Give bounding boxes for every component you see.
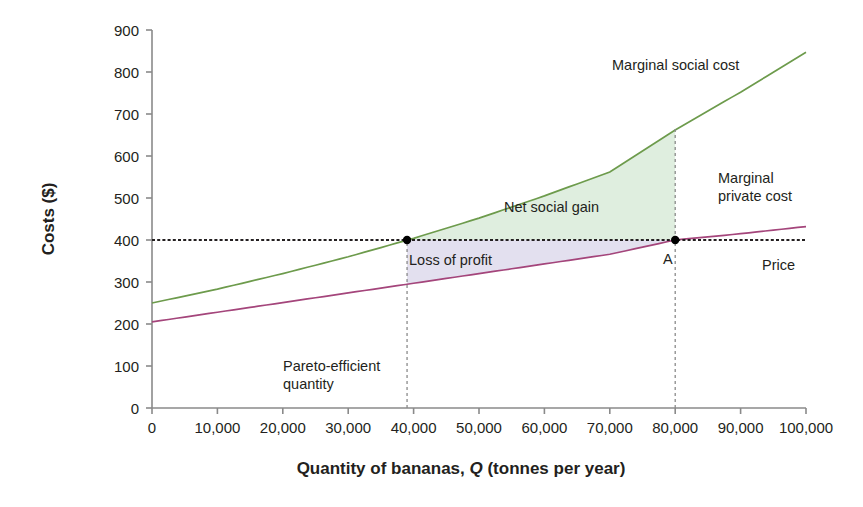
x-tick-label: 100,000	[779, 419, 833, 436]
x-tick-label: 50,000	[456, 419, 502, 436]
y-tick-label: 800	[114, 64, 139, 81]
y-tick-label: 0	[131, 400, 139, 417]
economics-externality-chart: 0100200300400500600700800900010,00020,00…	[0, 0, 863, 507]
chart-canvas: 0100200300400500600700800900010,00020,00…	[0, 0, 863, 507]
price-label: Price	[762, 257, 795, 273]
loss-of-profit-label: Loss of profit	[409, 252, 492, 268]
x-tick-label: 70,000	[587, 419, 633, 436]
x-tick-label: 90,000	[718, 419, 764, 436]
marginal-social-cost-label: Marginal social cost	[612, 57, 739, 73]
point-a-label: A	[663, 251, 673, 267]
x-tick-label: 20,000	[260, 419, 306, 436]
y-tick-label: 500	[114, 190, 139, 207]
y-tick-label: 200	[114, 316, 139, 333]
y-tick-label: 600	[114, 148, 139, 165]
x-tick-label: 60,000	[521, 419, 567, 436]
pareto-efficient-point	[403, 236, 411, 244]
y-tick-label: 300	[114, 274, 139, 291]
y-tick-label: 900	[114, 22, 139, 39]
y-tick-label: 100	[114, 358, 139, 375]
x-tick-label: 80,000	[652, 419, 698, 436]
y-tick-label: 700	[114, 106, 139, 123]
point-a	[671, 236, 679, 244]
x-tick-label: 40,000	[391, 419, 437, 436]
x-tick-label: 10,000	[194, 419, 240, 436]
x-axis-title: Quantity of bananas, Q (tonnes per year)	[297, 459, 626, 478]
y-tick-label: 400	[114, 232, 139, 249]
y-axis-title: Costs ($)	[39, 183, 58, 256]
net-social-gain-label: Net social gain	[504, 199, 599, 215]
x-tick-label: 30,000	[325, 419, 371, 436]
x-tick-label: 0	[148, 419, 156, 436]
